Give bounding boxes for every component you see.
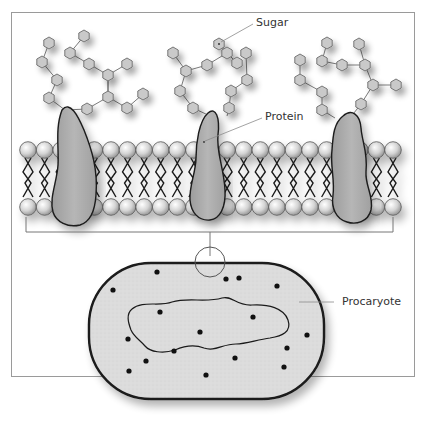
ribosome-dot: [197, 329, 202, 334]
ribosome-dot: [154, 269, 159, 274]
lipid-head: [136, 142, 153, 159]
lipid-head: [235, 199, 252, 216]
lipid-head: [368, 142, 385, 159]
ribosome-dot: [171, 348, 176, 353]
lipid-head: [20, 199, 37, 216]
diagram-stage: Sugar Protein Procaryote: [0, 0, 425, 428]
lipid-head: [152, 199, 169, 216]
ribosome-dot: [143, 358, 148, 363]
sugar-label: Sugar: [256, 16, 288, 29]
lipid-head: [385, 142, 402, 159]
ribosome-dot: [223, 276, 228, 281]
lipid-head: [136, 199, 153, 216]
ribosome-dot: [236, 275, 241, 280]
ribosome-dot: [284, 345, 289, 350]
membrane-diagram: [0, 0, 425, 428]
lipid-head: [119, 142, 136, 159]
lipid-head: [269, 199, 286, 216]
lipid-head: [219, 142, 236, 159]
ribosome-dot: [126, 368, 131, 373]
ribosome-dot: [250, 314, 255, 319]
ribosome-dot: [232, 355, 237, 360]
lipid-head: [285, 142, 302, 159]
lipid-head: [302, 199, 319, 216]
lipid-head: [169, 142, 186, 159]
lipid-head: [103, 199, 120, 216]
lipid-head: [20, 142, 37, 159]
ribosome-dot: [110, 287, 115, 292]
lipid-head: [235, 142, 252, 159]
procaryote-label: Procaryote: [342, 295, 401, 308]
lipid-head: [285, 199, 302, 216]
lipid-head: [252, 199, 269, 216]
lipid-head: [385, 199, 402, 216]
lipid-head: [252, 142, 269, 159]
lipid-head: [36, 142, 53, 159]
ribosome-dot: [304, 332, 309, 337]
ribosome-dot: [281, 364, 286, 369]
sugar-marker-dot: [218, 43, 220, 45]
lipid-head: [103, 142, 120, 159]
lipid-head: [119, 199, 136, 216]
protein-label: Protein: [265, 110, 304, 123]
lipid-head: [169, 199, 186, 216]
lipid-head: [269, 142, 286, 159]
protein-marker-dot: [203, 141, 205, 143]
lipid-head: [36, 199, 53, 216]
lipid-head: [152, 142, 169, 159]
ribosome-dot: [157, 309, 162, 314]
ribosome-dot: [274, 283, 279, 288]
lipid-head: [302, 142, 319, 159]
procaryote-cell: [89, 263, 324, 399]
ribosome-dot: [203, 372, 208, 377]
ribosome-dot: [125, 336, 130, 341]
